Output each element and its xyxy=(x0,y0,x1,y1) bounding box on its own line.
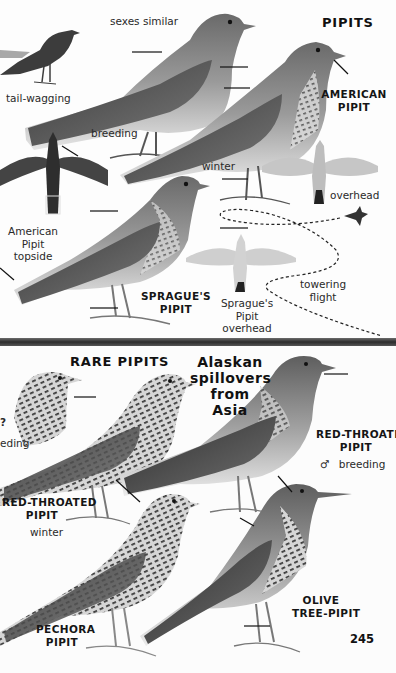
partial-breeding-label: eding xyxy=(0,437,29,450)
plate-divider xyxy=(0,338,396,346)
label-line: Sprague's xyxy=(218,297,276,310)
field-guide-page: PIPITS sexes similar tail-wagging breedi… xyxy=(0,0,396,673)
spragues-overhead-label: Sprague's Pipit overhead xyxy=(218,297,276,335)
flying-bird-silhouette-icon xyxy=(344,206,368,226)
winter-label: winter xyxy=(202,160,235,173)
winter-label: winter xyxy=(30,526,63,539)
label-line: overhead xyxy=(218,322,276,335)
species-name-line: AMERICAN xyxy=(318,88,390,101)
species-name-line: RED-THROATED xyxy=(316,428,396,441)
species-name-line: PIPIT xyxy=(318,101,390,114)
red-throated-pipit-head-illustration xyxy=(14,372,82,446)
subtitle-line: spillovers xyxy=(190,370,270,386)
label-line: Pipit xyxy=(218,310,276,323)
species-name-line: PIPIT xyxy=(36,636,88,649)
species-name-line: PIPIT xyxy=(316,441,396,454)
plate-subtitle: Alaskan spillovers from Asia xyxy=(190,354,270,418)
species-name-line: PECHORA xyxy=(36,623,88,636)
american-pipit-topside-label: American Pipit topside xyxy=(4,225,62,263)
breeding-text: breeding xyxy=(339,458,386,470)
species-name-line: SPRAGUE'S xyxy=(140,290,212,303)
red-throated-pipit-winter-label: RED-THROATED PIPIT xyxy=(2,496,82,521)
plate-title: PIPITS xyxy=(322,17,374,30)
rare-pipits-plate: RARE PIPITS Alaskan spillovers from Asia… xyxy=(0,346,396,673)
male-breeding-label: ♂ breeding xyxy=(320,458,385,471)
label-line: flight xyxy=(298,291,348,304)
breeding-label: breeding xyxy=(91,127,138,140)
towering-flight-label: towering flight xyxy=(298,278,348,303)
american-pipit-label: AMERICAN PIPIT xyxy=(318,88,390,113)
spragues-pipit-overhead-illustration xyxy=(186,234,296,292)
pechora-pipit-label: PECHORA PIPIT xyxy=(36,623,88,648)
olive-tree-pipit-label: OLIVE TREE-PIPIT xyxy=(292,594,350,619)
silhouette-bird-icon xyxy=(0,30,80,84)
american-pipit-topside-illustration xyxy=(0,132,108,214)
red-throated-pipit-breeding-label: RED-THROATED PIPIT xyxy=(316,428,396,453)
page-number: 245 xyxy=(350,633,374,646)
overhead-label: overhead xyxy=(330,189,379,202)
sexes-similar-label: sexes similar xyxy=(110,15,178,28)
pipits-plate: PIPITS sexes similar tail-wagging breedi… xyxy=(0,0,396,338)
label-line: American xyxy=(4,225,62,238)
male-symbol-icon: ♂ xyxy=(320,458,329,470)
species-name-line: OLIVE xyxy=(292,594,350,607)
species-name-line: PIPIT xyxy=(2,509,82,522)
label-line: Pipit xyxy=(4,238,62,251)
species-name-line: RED-THROATED xyxy=(2,496,82,509)
label-line: towering xyxy=(298,278,348,291)
spragues-pipit-label: SPRAGUE'S PIPIT xyxy=(140,290,212,315)
tail-wagging-label: tail-wagging xyxy=(6,92,71,105)
subtitle-line: Asia xyxy=(190,402,270,418)
partial-sex-symbol: ? xyxy=(0,416,6,429)
label-line: topside xyxy=(4,250,62,263)
plate-title: RARE PIPITS xyxy=(70,356,169,369)
species-name-line: PIPIT xyxy=(140,303,212,316)
species-name-line: TREE-PIPIT xyxy=(292,607,350,620)
subtitle-line: Alaskan xyxy=(190,354,270,370)
subtitle-line: from xyxy=(190,386,270,402)
